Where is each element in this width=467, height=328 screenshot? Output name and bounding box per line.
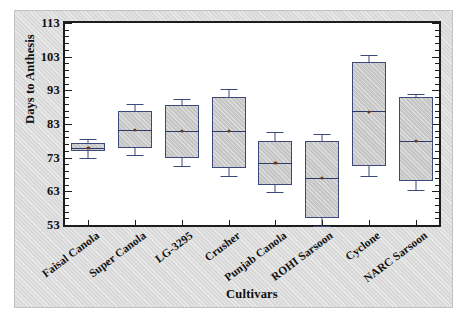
y-axis-minor-tick-right (435, 36, 439, 37)
y-axis-minor-tick (65, 117, 69, 118)
y-axis-minor-tick-right (435, 50, 439, 51)
box-plot-item[interactable] (399, 23, 433, 225)
box-plot-item[interactable] (305, 23, 339, 225)
x-axis-tick (135, 220, 136, 225)
y-axis-minor-tick (65, 36, 69, 37)
box-iqr (212, 97, 246, 168)
y-axis-minor-tick-right (435, 70, 439, 71)
y-axis-minor-tick (65, 50, 69, 51)
whisker-upper (322, 134, 323, 141)
whisker-upper (275, 132, 276, 140)
whisker-lower (415, 181, 416, 190)
whisker-cap-lower (314, 226, 331, 227)
x-axis-tick (275, 220, 276, 225)
whisker-lower (275, 185, 276, 192)
y-axis-minor-tick-right (435, 131, 439, 132)
whisker-cap-upper (127, 104, 144, 105)
y-axis-minor-tick (65, 70, 69, 71)
y-axis-tick (65, 225, 72, 226)
whisker-cap-upper (314, 134, 331, 135)
y-axis-tick-label: 103 (41, 49, 60, 64)
y-axis-minor-tick-right (435, 97, 439, 98)
y-axis-minor-tick (65, 137, 69, 138)
y-axis-minor-tick (65, 84, 69, 85)
box-plot-item[interactable] (352, 23, 386, 225)
y-axis-minor-tick-right (435, 185, 439, 186)
y-axis-minor-tick (65, 43, 69, 44)
y-axis-minor-tick (65, 218, 69, 219)
y-axis-minor-tick (65, 104, 69, 105)
whisker-lower (135, 148, 136, 156)
y-axis-tick-label: 83 (47, 117, 60, 132)
whisker-cap-upper (173, 99, 190, 100)
x-axis-category-label: LG-3295 (153, 229, 195, 265)
box-plot-item[interactable] (258, 23, 292, 225)
y-axis-minor-tick (65, 131, 69, 132)
y-axis-tick-right (432, 23, 439, 24)
x-axis-category-label: Crusher (202, 229, 242, 263)
whisker-cap-lower (220, 176, 237, 177)
whisker-cap-lower (407, 190, 424, 191)
y-axis-minor-tick-right (435, 151, 439, 152)
whisker-cap-lower (267, 192, 284, 193)
y-axis-tick-right (432, 191, 439, 192)
y-axis-tick-right (432, 90, 439, 91)
whisker-lower (181, 158, 182, 166)
box-plot-item[interactable] (71, 23, 105, 225)
y-axis-tick-label: 93 (47, 83, 60, 98)
box-iqr (352, 62, 386, 166)
y-axis-minor-tick-right (435, 218, 439, 219)
y-axis-minor-tick-right (435, 164, 439, 165)
figure-panel: Days to Anthesis 1131039383736353Faisal … (14, 10, 453, 308)
y-axis-minor-tick-right (435, 77, 439, 78)
whisker-cap-upper (80, 139, 97, 140)
x-axis-category-label: Cyclone (343, 229, 382, 263)
y-axis-tick-label: 113 (41, 16, 60, 31)
whisker-cap-upper (267, 132, 284, 133)
y-axis-minor-tick-right (435, 104, 439, 105)
whisker-cap-lower (173, 166, 190, 167)
x-axis-tick (369, 220, 370, 225)
whisker-cap-upper (360, 55, 377, 56)
y-axis-minor-tick-right (435, 178, 439, 179)
y-axis-minor-tick (65, 144, 69, 145)
box-plot-item[interactable] (212, 23, 246, 225)
y-axis-minor-tick (65, 185, 69, 186)
y-axis-minor-tick (65, 164, 69, 165)
y-axis-minor-tick (65, 151, 69, 152)
y-axis-minor-tick (65, 63, 69, 64)
box-plot-item[interactable] (165, 23, 199, 225)
y-axis-tick-right (432, 158, 439, 159)
plot-area: 1131039383736353Faisal CanolaSuper Canol… (65, 23, 439, 225)
box-plot-item[interactable] (118, 23, 152, 225)
y-axis-minor-tick-right (435, 30, 439, 31)
y-axis-title: Days to Anthesis (23, 34, 38, 124)
whisker-upper (368, 55, 369, 62)
box-iqr (305, 141, 339, 218)
y-axis-minor-tick-right (435, 111, 439, 112)
x-axis-tick (322, 220, 323, 225)
whisker-lower (228, 168, 229, 176)
y-axis-tick-label: 63 (47, 184, 60, 199)
y-axis-minor-tick (65, 77, 69, 78)
whisker-lower (368, 166, 369, 176)
whisker-cap-lower (127, 155, 144, 156)
y-axis-minor-tick-right (435, 205, 439, 206)
x-axis-tick (416, 220, 417, 225)
y-axis-minor-tick (65, 30, 69, 31)
y-axis-minor-tick-right (435, 137, 439, 138)
y-axis-tick-label: 73 (47, 150, 60, 165)
whisker-lower (88, 151, 89, 158)
y-axis-minor-tick-right (435, 43, 439, 44)
y-axis-minor-tick-right (435, 212, 439, 213)
whisker-upper (228, 89, 229, 97)
y-axis-minor-tick-right (435, 84, 439, 85)
whisker-cap-lower (80, 158, 97, 159)
y-axis-minor-tick (65, 97, 69, 98)
x-axis-tick (88, 220, 89, 225)
y-axis-minor-tick-right (435, 171, 439, 172)
plot-frame: 1131039383736353Faisal CanolaSuper Canol… (63, 21, 441, 227)
y-axis-minor-tick-right (435, 117, 439, 118)
whisker-cap-lower (360, 176, 377, 177)
y-axis-minor-tick (65, 212, 69, 213)
